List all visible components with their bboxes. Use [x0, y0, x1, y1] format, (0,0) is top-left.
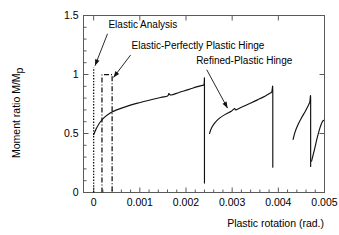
y-tick-label: 1.5: [64, 9, 79, 21]
x-tick-label: 0.003: [219, 196, 245, 208]
y-axis-title-main: Moment ratio: [10, 94, 22, 158]
series-elastic-perfectly-plastic-hinge: [102, 75, 112, 193]
annotation-label: Refined-Plastic Hinge: [196, 55, 293, 66]
series-refined-plastic-hinge-segment: [293, 96, 311, 167]
y-tick-label: 1: [73, 68, 79, 80]
series-refined-plastic-hinge-segment: [312, 120, 324, 161]
svg-text:Moment ratio M/Mp: Moment ratio M/Mp: [10, 67, 25, 158]
y-tick-label: 0: [73, 186, 79, 198]
y-tick-label: 0.5: [64, 127, 79, 139]
x-tick-label: 0.001: [127, 196, 153, 208]
x-tick-label: 0: [91, 196, 97, 208]
annotation-arrowhead: [223, 102, 228, 109]
x-axis-title: Plastic rotation (rad.): [227, 217, 324, 229]
y-axis-title: Moment ratio M/Mp: [10, 67, 25, 158]
x-tick-label: 0.004: [265, 196, 291, 208]
annotation-arrowhead: [95, 59, 99, 66]
plot-svg: 00.0010.0020.0030.0040.00500.511.5 Elast…: [0, 0, 339, 235]
y-axis-title-subscript: p: [13, 67, 25, 73]
annotation-label: Elastic-Perfectly Plastic Hinge: [132, 40, 265, 51]
annotation-label: Elastic Analysis: [108, 19, 177, 30]
y-axis-title-italic: M/M: [10, 73, 22, 93]
series-refined-plastic-hinge-segment: [94, 78, 205, 183]
series-refined-plastic-hinge-segment: [210, 86, 273, 167]
x-tick-label: 0.005: [311, 196, 337, 208]
x-tick-label: 0.002: [173, 196, 199, 208]
data-series-group: [94, 67, 324, 192]
annotation-arrowhead: [114, 71, 120, 77]
annotation-leader-line: [207, 70, 228, 108]
annotation-labels: Elastic AnalysisElastic-Perfectly Plasti…: [108, 19, 292, 66]
chart-figure: 00.0010.0020.0030.0040.00500.511.5 Elast…: [0, 0, 339, 235]
